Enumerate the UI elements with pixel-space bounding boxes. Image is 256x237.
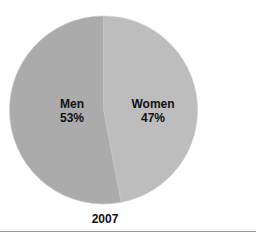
slice-label-men-value: 53% [37,111,107,125]
slice-label-women: Women 47% [118,97,188,125]
chart-caption-year: 2007 [0,212,210,226]
slice-label-women-value: 47% [118,111,188,125]
slice-label-men-name: Men [37,97,107,111]
slice-label-men: Men 53% [37,97,107,125]
slice-label-women-name: Women [118,97,188,111]
divider-line [0,231,256,232]
